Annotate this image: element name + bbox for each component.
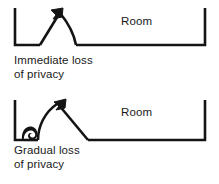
diagram-panel-immediate: Room Immediate loss of privacy <box>0 0 219 92</box>
breach-falling-curve-top <box>60 13 76 45</box>
gradual-seepage-curl <box>22 127 38 140</box>
room-label-bottom: Room <box>121 106 152 119</box>
caption-immediate-loss-line1: Immediate loss <box>14 54 93 68</box>
diagram-panel-gradual: Room Gradual loss of privacy <box>0 92 219 184</box>
arrowhead-top <box>51 8 63 19</box>
room-label-top: Room <box>121 15 152 28</box>
caption-gradual-loss-line1: Gradual loss <box>14 144 80 158</box>
caption-gradual-loss: Gradual loss of privacy <box>14 144 80 171</box>
breach-rising-curve-bottom <box>38 104 57 140</box>
caption-gradual-loss-line2: of privacy <box>14 158 80 172</box>
caption-immediate-loss-line2: of privacy <box>14 68 93 82</box>
privacy-loss-figure: Room Immediate loss of privacy Room <box>0 0 219 184</box>
caption-immediate-loss: Immediate loss of privacy <box>14 54 93 81</box>
breach-falling-line-bottom <box>58 104 88 140</box>
room-left-wall-and-floor-stub-top <box>15 8 40 45</box>
